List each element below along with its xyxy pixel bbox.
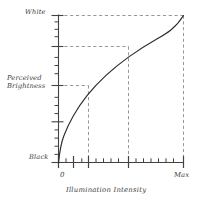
x-axis-label-zero: 0 — [60, 171, 64, 179]
axis-lines — [59, 15, 184, 163]
y-axis-label-white: White — [25, 9, 46, 17]
y-axis-minor-ticks — [55, 22, 59, 155]
reference-lines — [59, 16, 184, 163]
brightness-response-figure: White Black Perceived Brightness 0 Max I… — [0, 0, 208, 201]
y-axis-label-black: Black — [29, 154, 48, 162]
y-axis-title: Perceived Brightness — [7, 74, 45, 90]
brightness-response-curve — [59, 16, 184, 163]
y-axis-major-ticks — [52, 16, 64, 163]
x-axis-title: Illumination Intensity — [66, 186, 146, 194]
x-axis-minor-ticks — [66, 158, 174, 162]
y-axis-title-line-1: Perceived — [7, 74, 45, 82]
y-axis-title-line-2: Brightness — [7, 82, 45, 90]
x-axis-label-max: Max — [174, 171, 189, 179]
